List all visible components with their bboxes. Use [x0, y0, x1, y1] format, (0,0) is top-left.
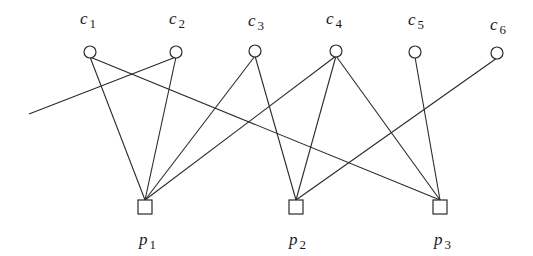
- label-p3: p3: [433, 230, 451, 252]
- edge-c4-p2: [296, 56, 336, 200]
- circle-node-icon: [170, 46, 182, 58]
- label-c3: c3: [248, 11, 264, 33]
- label-p1: p1: [138, 230, 156, 252]
- node-p1: p1: [138, 200, 156, 252]
- label-c2: c2: [169, 9, 185, 31]
- edge-c3-p2: [255, 56, 296, 200]
- c-nodes-layer: c1c2c3c4c5c6: [80, 9, 507, 59]
- edges-layer: [29, 56, 497, 200]
- label-p2: p2: [288, 230, 306, 252]
- label-c6: c6: [490, 15, 507, 37]
- circle-node-icon: [330, 45, 342, 57]
- square-node-icon: [289, 200, 303, 214]
- circle-node-icon: [249, 45, 261, 57]
- circle-node-icon: [409, 46, 421, 58]
- node-c3: c3: [248, 11, 264, 57]
- edge-c5-p3: [415, 57, 440, 200]
- p-nodes-layer: p1p2p3: [138, 200, 451, 252]
- node-p3: p3: [433, 200, 451, 252]
- label-c4: c4: [326, 9, 343, 31]
- edge-c4-p1: [145, 56, 336, 200]
- circle-node-icon: [84, 46, 96, 58]
- label-c5: c5: [408, 10, 424, 32]
- square-node-icon: [138, 200, 152, 214]
- edge-c1-p1: [90, 57, 145, 200]
- circle-node-icon: [491, 47, 503, 59]
- node-c2: c2: [169, 9, 185, 58]
- edge-c6-p2: [296, 58, 497, 200]
- label-c1: c1: [80, 9, 96, 31]
- edge-c1-p3: [90, 57, 440, 200]
- square-node-icon: [433, 200, 447, 214]
- node-c1: c1: [80, 9, 96, 58]
- bipartite-graph-diagram: c1c2c3c4c5c6 p1p2p3: [0, 0, 533, 256]
- node-p2: p2: [288, 200, 306, 252]
- node-c4: c4: [326, 9, 343, 57]
- edge-c3-p1: [145, 56, 255, 200]
- edge-c2-p1: [145, 57, 176, 200]
- node-c6: c6: [490, 15, 507, 59]
- node-c5: c5: [408, 10, 424, 58]
- edge-c2-external-left: [29, 57, 176, 114]
